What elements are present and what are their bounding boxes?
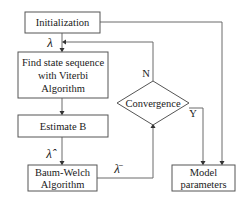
node-estimate-b: Estimate B [18,115,108,137]
baum-welch-label-line2: Algorithm [41,179,85,190]
node-baum-welch: Baum-Welch Algorithm [28,165,97,191]
flowchart: Initialization Find state sequence with … [0,0,249,202]
model-parameters-label-line1: Model [190,167,217,178]
lambda-label: λ [46,35,53,50]
find-state-label-line2: with Viterbi [38,70,88,81]
convergence-label: Convergence [125,98,181,109]
lambda-hat-label: λ̂ [45,146,57,161]
node-initialization: Initialization [25,12,100,33]
initialization-label: Initialization [36,17,90,28]
node-find-state: Find state sequence with Viterbi Algorit… [18,52,108,98]
node-convergence: Convergence [117,81,189,125]
model-parameters-label-line2: parameters [180,179,226,190]
find-state-label-line3: Algorithm [41,83,85,94]
lambda-bar-label: λ̄ [113,161,124,176]
no-label: N [142,68,150,79]
arrowhead-feedback [62,40,66,45]
baum-welch-label-line1: Baum-Welch [35,167,91,178]
find-state-label-line1: Find state sequence [22,57,105,68]
yes-label: Y [189,108,197,119]
estimate-b-label: Estimate B [40,121,86,132]
node-model-parameters: Model parameters [172,165,235,191]
